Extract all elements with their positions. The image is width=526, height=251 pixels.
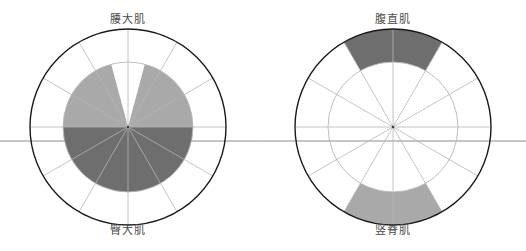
right-diagram-bottom-label: 竖脊肌: [375, 221, 411, 237]
right-center-dot: [392, 126, 394, 128]
radial-muscle-diagram-figure: [0, 0, 526, 251]
right-diagram-top-label: 腹直肌: [375, 10, 411, 26]
left-center-dot: [127, 126, 129, 128]
left-diagram-top-label: 腰大肌: [110, 10, 146, 26]
left-diagram-bottom-label: 臀大肌: [110, 221, 146, 237]
